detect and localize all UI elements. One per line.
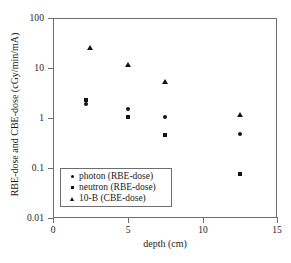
data-point-circle [126,107,130,111]
legend-item-photon: photon (RBE-dose) [67,171,167,182]
legend-label-10b: 10-B (CBE-dose) [77,193,146,204]
data-point-triangle [162,79,168,84]
y-axis-tick-10 [48,68,54,69]
y-axis-tick-100 [48,18,54,19]
x-axis-tick-0 [53,217,54,223]
x-axis-label-10: 10 [188,225,218,235]
y-axis-label-0-01: 0.01 [27,213,44,223]
data-point-square [84,98,88,102]
data-point-triangle [87,45,93,50]
y-axis-label-100: 100 [29,13,44,23]
x-axis-label-0: 0 [38,225,68,235]
data-point-square [126,115,130,119]
x-axis-tick-5 [128,217,129,223]
legend-item-10b: 10-B (CBE-dose) [67,193,167,204]
legend-marker-triangle-icon [67,197,77,201]
legend-label-neutron: neutron (RBE-dose) [77,182,156,193]
x-axis-tick-15 [277,217,278,223]
y-axis-tick-01 [48,168,54,169]
x-axis-tick-10 [203,217,204,223]
y-axis-title: RBE-dose and CBE-dose (cGy/min/mA) [9,15,20,215]
legend-label-photon: photon (RBE-dose) [77,171,153,182]
data-point-circle [238,132,242,136]
y-axis-label-10: 10 [34,63,44,73]
y-axis-label-1: 1 [39,113,44,123]
x-axis-title: depth (cm) [53,238,277,249]
data-point-circle [163,115,167,119]
data-point-triangle [237,112,243,117]
x-axis-label-5: 5 [113,225,143,235]
legend-item-neutron: neutron (RBE-dose) [67,182,167,193]
scatter-chart-figure: 100 10 1 0.1 0.01 0 5 10 15 depth (cm) R… [0,0,291,263]
y-axis-label-0-1: 0.1 [32,163,44,173]
y-axis-tick-1 [48,118,54,119]
data-point-triangle [125,62,131,67]
legend-marker-circle-icon [67,175,77,178]
data-point-circle [84,102,88,106]
data-point-square [238,172,242,176]
legend-marker-square-icon [67,186,77,189]
chart-legend: photon (RBE-dose) neutron (RBE-dose) 10-… [60,168,172,207]
x-axis-label-15: 15 [262,225,291,235]
data-point-square [163,133,167,137]
